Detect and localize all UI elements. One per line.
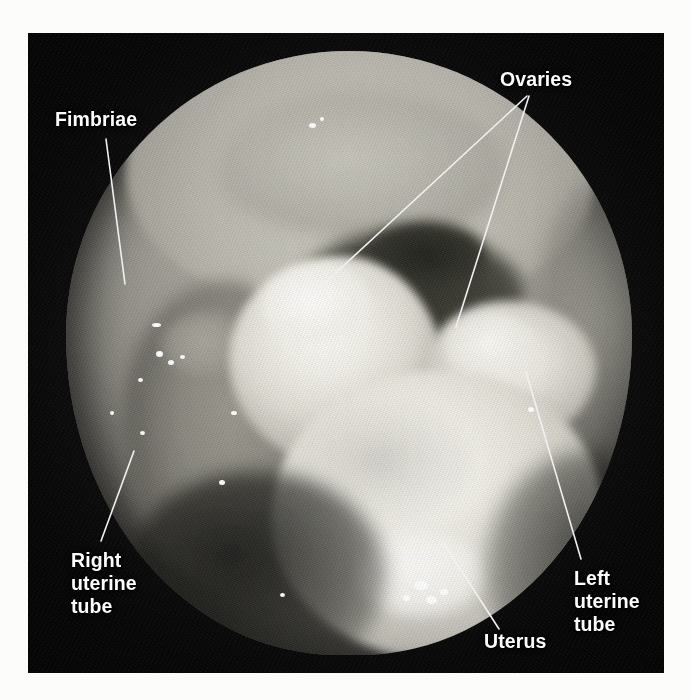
specular-highlight-1 [309, 123, 316, 128]
peritoneal-fold-tissue [216, 91, 506, 241]
specular-highlight-15 [403, 595, 410, 601]
specular-highlight-13 [426, 596, 437, 604]
left-ovary-highlight [444, 313, 536, 379]
specular-highlight-8 [110, 411, 114, 415]
specular-highlight-3 [152, 323, 161, 327]
specular-highlight-7 [138, 378, 143, 382]
right-ovary-highlight [262, 263, 372, 345]
specular-highlight-4 [156, 351, 163, 357]
specular-highlight-10 [231, 411, 237, 415]
specular-highlight-9 [140, 431, 145, 435]
specular-highlight-14 [440, 589, 448, 595]
specular-highlight-6 [180, 355, 185, 359]
specular-highlight-11 [219, 480, 225, 485]
specular-highlight-16 [528, 407, 534, 412]
figure-page: Fimbriae Ovaries Right uterine tube Left… [0, 0, 690, 700]
specular-highlight-12 [414, 581, 428, 590]
specular-highlight-17 [280, 593, 285, 597]
specular-highlight-5 [168, 360, 174, 365]
laparoscopic-photo-plate: Fimbriae Ovaries Right uterine tube Left… [28, 33, 664, 673]
laparoscope-field-of-view [66, 51, 632, 655]
specular-highlight-2 [320, 117, 324, 121]
